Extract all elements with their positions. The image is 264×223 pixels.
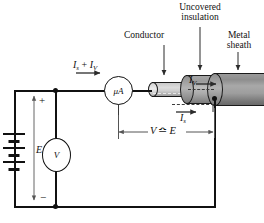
label-voltage-relation-approx: ≏ [156, 125, 169, 136]
label-voltage-relation-E: E [169, 125, 175, 136]
circuit-diagram: Uncovered insulation Conductor Metal she… [0, 0, 264, 223]
label-voltage-relation: V≏E [150, 125, 176, 136]
dimension-arrow-line [0, 0, 264, 223]
